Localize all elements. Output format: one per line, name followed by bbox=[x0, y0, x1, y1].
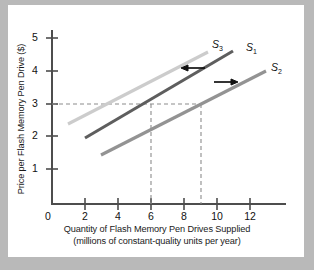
figure-container: 5 4 3 2 1 0 2 4 6 8 10 12 S3 S1 S2 Quant… bbox=[0, 0, 314, 270]
supply-curve-s3 bbox=[68, 52, 208, 124]
x-axis-title: Quantity of Flash Memory Pen Drives Supp… bbox=[0, 224, 314, 247]
curve-label-s3: S3 bbox=[212, 38, 223, 52]
curve-label-s3-text: S bbox=[212, 38, 219, 50]
y-axis-title: Price per Flash Memory Pen Drive ($) bbox=[16, 24, 26, 214]
curve-label-s3-subscript: 3 bbox=[219, 45, 223, 52]
curve-label-s1-subscript: 1 bbox=[253, 48, 257, 55]
x-tick-label-12: 12 bbox=[243, 210, 257, 222]
x-tick-label-0: 0 bbox=[41, 210, 55, 222]
x-axis-title-line2: (millions of constant-quality units per … bbox=[0, 236, 314, 248]
curve-label-s1: S1 bbox=[246, 41, 257, 55]
y-tick-label-5: 5 bbox=[28, 31, 42, 43]
y-tick-label-2: 2 bbox=[28, 129, 42, 141]
curve-label-s2-text: S bbox=[271, 61, 278, 73]
x-axis-title-line1: Quantity of Flash Memory Pen Drives Supp… bbox=[0, 224, 314, 236]
curve-label-s1-text: S bbox=[246, 41, 253, 53]
x-tick-label-8: 8 bbox=[177, 210, 191, 222]
y-tick-label-4: 4 bbox=[28, 64, 42, 76]
y-axis-title-wrapper: Price per Flash Memory Pen Drive ($) bbox=[16, 24, 30, 214]
y-tick-label-1: 1 bbox=[28, 162, 42, 174]
y-tick-label-3: 3 bbox=[28, 97, 42, 109]
x-tick-label-4: 4 bbox=[111, 210, 125, 222]
x-tick-label-10: 10 bbox=[210, 210, 224, 222]
x-tick-label-2: 2 bbox=[78, 210, 92, 222]
x-tick-label-6: 6 bbox=[144, 210, 158, 222]
shift-right-arrow bbox=[214, 79, 238, 85]
curve-label-s2: S2 bbox=[271, 61, 282, 75]
curve-label-s2-subscript: 2 bbox=[278, 68, 282, 75]
